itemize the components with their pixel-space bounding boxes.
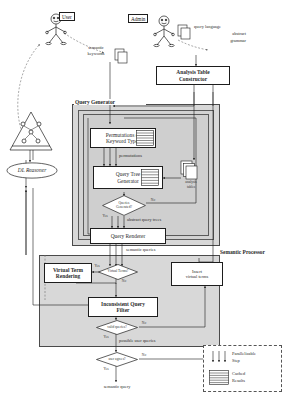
figure-canvas: User Admin semantic keywords	[0, 0, 287, 414]
legend-parallelizable-icon	[209, 350, 229, 366]
decision-user-agrees[interactable]: user agrees?	[96, 352, 138, 367]
container-semantic-processor-label: Semantic Processor	[219, 249, 287, 255]
query-tree-generator-line2: Generator	[117, 178, 139, 184]
insert-virtual-terms-line2: virtual terms	[186, 274, 208, 279]
valid-queries-yes-label: Yes	[100, 336, 112, 340]
user-agrees-yes-label: Yes	[100, 368, 112, 372]
queries-generated-no-label: No	[146, 199, 160, 203]
legend-cached-line2: Results	[232, 378, 280, 383]
output-semantic-query: semantic query	[86, 384, 148, 389]
valid-queries-no-label: No	[138, 322, 150, 326]
edge-label-permutations: permutations	[119, 153, 167, 158]
semantic-keywords-label-line2: keywords	[76, 51, 116, 56]
edge-label-possible-user-queries: possible user queries	[119, 338, 195, 343]
actor-user-label: User	[59, 12, 75, 21]
dl-reasoner-label: DL Reasoner	[6, 167, 58, 173]
query-renderer-label: Query Renderer	[111, 233, 146, 239]
permutations-line2: Keyword Types	[106, 138, 140, 144]
analysis-tables-label-line2: tables	[176, 186, 206, 190]
decision-queries-generated[interactable]: Queries Generated?	[102, 195, 146, 216]
decision-valid-queries[interactable]: valid queries?	[96, 320, 138, 335]
analysis-tables-doc-icon	[180, 160, 200, 180]
edge-label-semantic-queries: semantic queries	[126, 247, 188, 252]
box-inconsistent-query-filter[interactable]: Inconsistent Query Filter	[88, 297, 158, 317]
actor-admin	[146, 14, 180, 48]
user-agrees-no-label: No	[138, 354, 150, 358]
box-analysis-table-constructor[interactable]: Analysis Table Constructor	[156, 66, 230, 85]
container-query-generator-label: Query Generator	[74, 99, 146, 105]
query-tree-generator-cached-results-icon	[141, 169, 159, 186]
legend-parallelizable-line2: Step	[232, 358, 280, 363]
box-query-renderer[interactable]: Query Renderer	[90, 228, 166, 244]
virtual-terms-no-label: No	[118, 280, 130, 284]
query-language-doc-icon	[177, 24, 193, 40]
query-language-label-line3: grammar	[194, 38, 246, 43]
semantic-keywords-label-line1: semantic	[76, 45, 116, 50]
semantic-keywords-doc-icon	[114, 48, 130, 64]
actor-admin-label: Admin	[128, 14, 148, 23]
box-virtual-term-rendering[interactable]: Virtual Term Rendering	[44, 263, 92, 283]
query-language-label-line1: query language	[194, 24, 246, 29]
box-insert-virtual-terms[interactable]: Insert virtual terms	[171, 262, 223, 286]
inconsistent-query-filter-line2: Filter	[117, 307, 130, 313]
ontology-triangle-icon	[8, 110, 54, 152]
analysis-table-constructor-line2: Constructor	[179, 76, 207, 82]
virtual-terms-yes-label: Yes	[91, 265, 103, 269]
decision-virtual-terms[interactable]: Virtual Terms?	[98, 264, 138, 280]
legend-cached-results-icon	[209, 370, 229, 385]
legend-parallelizable-line1: Parallelizable	[232, 351, 280, 356]
virtual-term-rendering-line2: Rendering	[56, 273, 80, 279]
edge-label-abstract-query-trees: abstract query trees	[127, 217, 197, 222]
legend-cached-line1: Cached	[232, 371, 280, 376]
query-language-label-line2: abstract	[194, 31, 246, 36]
permutations-cached-results-icon	[136, 130, 154, 146]
queries-generated-yes-label: Yes	[98, 215, 112, 219]
